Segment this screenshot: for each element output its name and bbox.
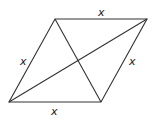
label-left-side: x (19, 55, 27, 68)
diagonal-short (55, 19, 101, 102)
label-bottom-side: x (50, 105, 58, 118)
label-top-side: x (97, 6, 105, 19)
label-right-side: x (128, 55, 136, 68)
rhombus-diagram: x x x x (0, 0, 154, 119)
